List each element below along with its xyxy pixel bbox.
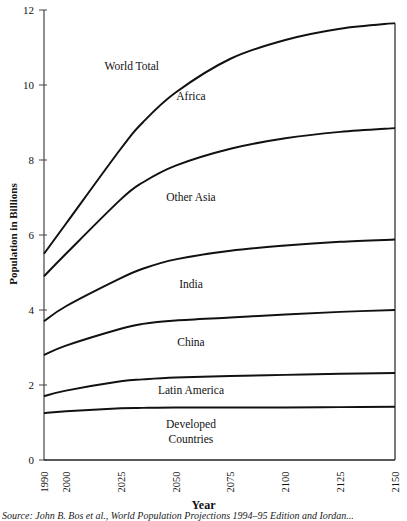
x-tick-label: 2050	[171, 472, 182, 493]
region-label: Other Asia	[166, 191, 216, 203]
region-label: China	[177, 336, 204, 348]
y-tick-label: 6	[29, 229, 35, 241]
y-tick-label: 0	[29, 454, 35, 466]
x-tick-label: 2025	[116, 472, 127, 493]
region-label: Countries	[169, 433, 214, 445]
x-tick-label: 2125	[335, 472, 346, 493]
y-axis-label: Population in Billions	[7, 149, 19, 319]
boundary-curve-china	[44, 310, 395, 355]
x-tick-label: 2000	[61, 472, 72, 493]
boundary-curve-india	[44, 240, 395, 322]
y-tick-label: 10	[23, 79, 35, 91]
boundary-curve-world-total	[44, 23, 395, 254]
boundary-curve-other-asia	[44, 128, 395, 276]
y-tick-label: 2	[29, 379, 35, 391]
x-tick-label: 2100	[280, 472, 291, 493]
series-curves	[44, 23, 395, 413]
x-tick-label: 2075	[225, 472, 236, 493]
x-tick-label: 2150	[390, 472, 401, 493]
region-label: World Total	[104, 60, 159, 72]
y-tick-label: 8	[29, 154, 35, 166]
region-label: Africa	[176, 90, 205, 102]
y-tick-label: 12	[23, 4, 34, 16]
region-labels: World TotalAfricaOther AsiaIndiaChinaLat…	[104, 60, 224, 445]
boundary-curve-developed-countries	[44, 407, 395, 413]
region-label: India	[179, 278, 203, 290]
x-tick-label: 1990	[39, 472, 50, 493]
y-tick-label: 4	[29, 304, 35, 316]
region-label: Latin America	[158, 384, 224, 396]
source-note: Source: John B. Bos et al., World Popula…	[2, 510, 407, 521]
region-label: Developed	[166, 418, 216, 431]
